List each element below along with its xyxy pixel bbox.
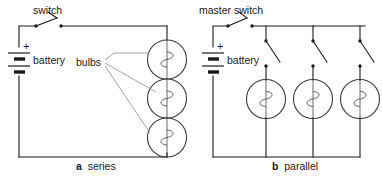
series-battery-label: battery — [33, 55, 65, 66]
parallel-circuit-group — [202, 12, 380, 157]
circuit-diagram-figure: switch + battery bulbs a series master s… — [0, 0, 382, 176]
series-switch-contact-left — [34, 24, 37, 27]
series-bulbs-label: bulbs — [76, 57, 101, 68]
circuit-diagram-canvas — [0, 0, 382, 176]
series-caption: a series — [76, 161, 116, 172]
bulbs-leader-1 — [105, 53, 149, 60]
series-caption-text: series — [88, 160, 116, 172]
series-switch-contact-right — [59, 24, 62, 27]
branch3-switch-lever — [360, 41, 374, 62]
series-battery-polarity-label: + — [23, 41, 29, 52]
parallel-branch-3 — [341, 26, 380, 157]
branch2-switch-lever — [313, 41, 327, 62]
parallel-branch-2 — [294, 26, 333, 157]
parallel-battery-polarity-label: + — [217, 41, 223, 52]
series-switch-label: switch — [33, 5, 62, 16]
branch1-switch-lever — [266, 41, 280, 62]
parallel-branch-1 — [247, 26, 286, 157]
parallel-caption: b parallel — [272, 161, 318, 172]
series-switch-lever — [36, 18, 57, 26]
parallel-master-contact-left — [226, 24, 229, 27]
parallel-master-switch-lever — [228, 18, 247, 26]
parallel-caption-text: parallel — [284, 160, 318, 172]
parallel-battery-label: battery — [227, 55, 259, 66]
series-circuit-group — [8, 12, 187, 157]
parallel-master-switch-label: master switch — [199, 5, 263, 16]
